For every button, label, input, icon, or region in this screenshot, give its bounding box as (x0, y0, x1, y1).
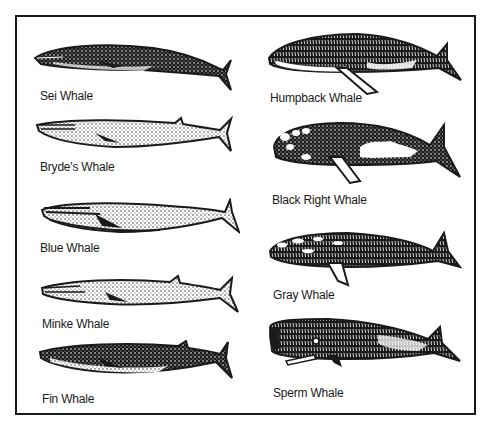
fin-whale-label: Fin Whale (42, 392, 94, 406)
blue-whale-label: Blue Whale (40, 241, 99, 255)
minke-whale-label: Minke Whale (42, 317, 109, 331)
fin-whale-illustration (38, 340, 234, 380)
humpback-whale-illustration (267, 28, 463, 96)
brydes-whale-illustration (35, 115, 233, 155)
sperm-whale-label: Sperm Whale (273, 386, 344, 400)
gray-whale-illustration (268, 229, 462, 287)
humpback-whale-label: Humpback Whale (270, 91, 362, 105)
black-right-whale-illustration (270, 117, 462, 185)
sperm-whale-illustration (268, 317, 462, 371)
sei-whale-illustration (33, 38, 233, 92)
black-right-whale-label: Black Right Whale (272, 193, 367, 207)
blue-whale-illustration (40, 198, 240, 236)
gray-whale-label: Gray Whale (273, 288, 334, 302)
brydes-whale-label: Bryde's Whale (40, 160, 114, 174)
minke-whale-illustration (40, 274, 240, 314)
sei-whale-label: Sei Whale (40, 89, 93, 103)
